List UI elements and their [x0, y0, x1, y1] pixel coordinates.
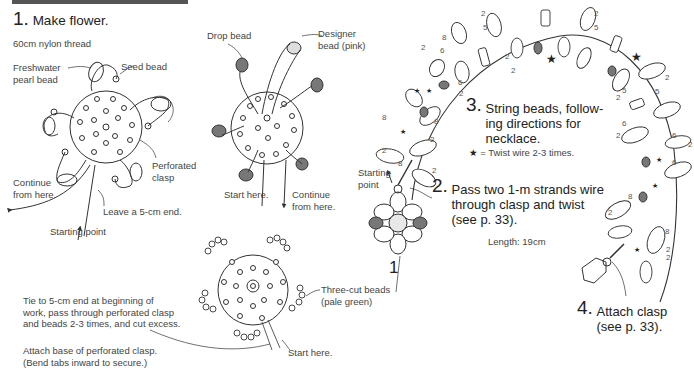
star-icon: ★ [469, 147, 478, 158]
step3-number: 3. [466, 94, 482, 115]
bead-count: 5 [655, 87, 659, 96]
label-seed-bead: Seed bead [121, 61, 167, 73]
svg-text:★: ★ [414, 87, 420, 95]
bead-count: 2 [481, 9, 485, 18]
step2-text: Pass two 1-m strands wire through clasp … [451, 182, 603, 227]
label-start-here-c: Start here. [288, 347, 332, 359]
legend: ★ = Twist wire 2-3 times. [469, 147, 574, 159]
bead-count: 2 [459, 89, 463, 98]
bead-count: 6 [440, 46, 444, 55]
step1-subtitle: 60cm nylon thread [13, 38, 91, 50]
bead-count: 8 [382, 113, 386, 122]
bead-count: 8 [628, 192, 632, 201]
bead-count: 2 [666, 253, 670, 262]
step4-instruction: 4. Attach clasp (see p. 33). [577, 300, 667, 334]
bead-count: 2 [616, 93, 620, 102]
bead-count: 2 [665, 73, 669, 82]
bead-count: 2 [616, 131, 620, 140]
label-freshwater-pearl: Freshwater pearl bead [13, 62, 61, 85]
label-drop-bead: Drop bead [207, 30, 251, 42]
label-continue-b: Continue from here. [292, 189, 335, 212]
legend-text: = Twist wire 2-3 times. [480, 147, 574, 158]
label-designer-bead: Designer bead (pink) [318, 28, 366, 51]
label-leave-end: Leave a 5-cm end. [103, 206, 182, 218]
svg-text:★: ★ [652, 182, 658, 190]
step2-number: 2. [432, 175, 448, 196]
step2-instruction: 2. Pass two 1-m strands wire through cla… [432, 178, 604, 227]
step1-number: 1. [13, 8, 29, 29]
bead-count: 8 [434, 117, 438, 126]
bead-count: 2 [505, 52, 509, 61]
bead-count: 6 [672, 158, 676, 167]
bead-count: 8 [398, 159, 402, 168]
bead-count: 6 [458, 78, 462, 87]
bead-count: 2 [688, 140, 692, 149]
label-perforated-clasp: Perforated clasp [152, 160, 196, 183]
bead-count: 2 [594, 9, 598, 18]
label-continue: Continue from here. [13, 177, 56, 200]
label-starting-point: Starting point [50, 226, 106, 238]
bead-count: 2 [432, 166, 436, 175]
bead-count: 5 [594, 23, 598, 32]
svg-text:★: ★ [546, 52, 557, 66]
bead-count: 8 [665, 227, 669, 236]
bead-count: 8 [442, 33, 446, 42]
svg-text:★: ★ [634, 246, 640, 254]
bead-count: 5 [483, 23, 487, 32]
bead-count: 2 [430, 135, 434, 144]
label-starting-point-2: Starting point [358, 167, 391, 190]
step3-text: String beads, follow- ing directions for… [485, 101, 603, 146]
bead-count: 2 [382, 146, 386, 155]
svg-text:★: ★ [426, 87, 432, 95]
step1-title: Make flower. [33, 13, 109, 28]
bead-count: 5 [622, 86, 626, 95]
step4-text: Attach clasp (see p. 33). [596, 304, 667, 334]
bead-count: 2 [511, 66, 515, 75]
bead-count: 6 [622, 119, 626, 128]
label-three-cut-beads: Three-cut beads (pale green) [321, 284, 390, 307]
label-start-here: Start here. [224, 189, 268, 201]
step1-heading: 1. Make flower. [13, 11, 108, 29]
bead-count: 6 [672, 131, 676, 140]
bead-count: 2 [421, 43, 425, 52]
step4-number: 4. [577, 297, 593, 318]
attach-note: Attach base of perforated clasp. (Bend t… [23, 345, 157, 368]
svg-text:★: ★ [656, 156, 662, 164]
bead-count: 2 [608, 208, 612, 217]
tie-note: Tie to 5-cm end at beginning of work, pa… [23, 295, 180, 330]
svg-text:★: ★ [631, 50, 642, 64]
flower-label: 1 [389, 258, 398, 278]
svg-text:★: ★ [400, 128, 406, 136]
necklace-length: Length: 19cm [488, 236, 546, 248]
step3-instruction: 3. String beads, follow- ing directions … [466, 97, 603, 146]
